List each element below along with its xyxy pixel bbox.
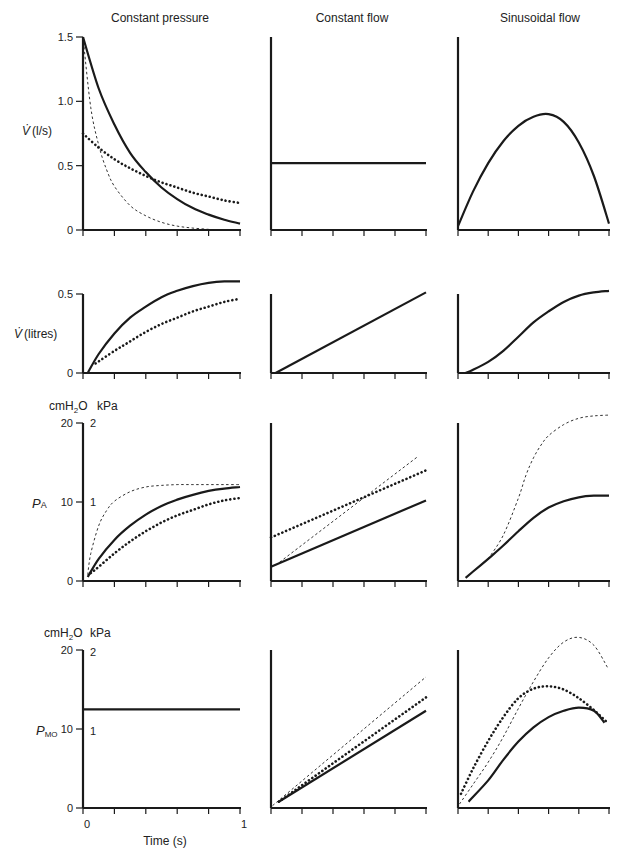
series-solid xyxy=(469,708,605,802)
x-tick-label-1: 1 xyxy=(241,818,247,830)
x-tick-label-0: 0 xyxy=(84,818,90,830)
y-tick-label-kpa: 2 xyxy=(90,646,96,658)
x-axis-title: Time (s) xyxy=(143,834,187,848)
column-title-constant-flow: Constant flow xyxy=(316,11,389,25)
series-dotted xyxy=(461,686,608,794)
y-tick-label: 20 xyxy=(61,417,73,429)
row-label-mouth-pressure: PMO xyxy=(36,723,58,739)
y-tick-label: 0 xyxy=(67,575,73,587)
series-dotted xyxy=(91,498,240,573)
row-label-alveolar-pressure: PA xyxy=(32,496,47,511)
y-tick-label: 1.0 xyxy=(58,95,73,107)
series-dashed xyxy=(88,485,240,575)
panel-r3-c3 xyxy=(458,415,610,587)
series-solid xyxy=(83,37,240,224)
y-tick-label: 10 xyxy=(61,496,73,508)
y-tick-label: 0.5 xyxy=(58,288,73,300)
row4-units-cmh2o: cmH2O xyxy=(44,626,82,642)
y-tick-label: 20 xyxy=(61,644,73,656)
row3-units-cmh2o: cmH2O xyxy=(49,399,87,415)
series-dotted xyxy=(83,134,240,204)
row3-units-kpa: kPa xyxy=(97,399,118,413)
panel-r4-c2 xyxy=(271,650,427,814)
panel-r3-c2 xyxy=(271,423,427,587)
row-label-volume: V̇(litres) xyxy=(14,327,57,341)
y-tick-label: 10 xyxy=(61,723,73,735)
y-tick-label-kpa: 1 xyxy=(90,725,96,737)
series-dotted xyxy=(271,470,426,537)
series-solid xyxy=(276,292,426,373)
series-solid xyxy=(88,281,240,373)
x-axis-labels: 0 1 Time (s) xyxy=(84,818,247,848)
panel-r2-c2 xyxy=(271,292,427,379)
panel-r1-c3 xyxy=(458,37,610,236)
panel-r4-c3 xyxy=(458,637,610,814)
figure-canvas: Constant pressure Constant flow Sinusoid… xyxy=(0,0,624,858)
row-label-flow: V̇(l/s) xyxy=(22,124,52,138)
series-dashed xyxy=(273,677,426,806)
y-tick-label-kpa: 2 xyxy=(90,417,96,429)
row4-units-kpa: kPa xyxy=(90,626,111,640)
y-tick-label: 0 xyxy=(67,802,73,814)
series-dashed xyxy=(83,37,216,230)
series-solid xyxy=(88,487,240,577)
panel-r4-c1: 0101202 xyxy=(61,644,241,814)
column-titles: Constant pressure Constant flow Sinusoid… xyxy=(111,11,580,25)
series-solid xyxy=(466,496,609,578)
y-tick-label: 0 xyxy=(67,224,73,236)
panel-r1-c2 xyxy=(271,37,427,236)
panel-grid: 00.51.01.500.501012020101202 xyxy=(58,31,610,814)
series-solid xyxy=(279,711,426,802)
y-tick-label: 0.5 xyxy=(58,160,73,172)
series-dashed xyxy=(276,456,419,565)
series-solid xyxy=(271,500,426,566)
series-dashed xyxy=(460,637,608,804)
panel-r3-c1: 0101202 xyxy=(61,417,241,587)
y-tick-label: 0 xyxy=(67,367,73,379)
panel-r2-c1: 00.5 xyxy=(58,281,241,379)
y-tick-label: 1.5 xyxy=(58,31,73,43)
series-dashed xyxy=(488,415,609,559)
column-title-constant-pressure: Constant pressure xyxy=(111,11,209,25)
panel-r2-c3 xyxy=(458,291,610,379)
y-tick-label-kpa: 1 xyxy=(90,496,96,508)
series-solid xyxy=(466,291,609,373)
series-dotted xyxy=(279,697,426,801)
panel-r1-c1: 00.51.01.5 xyxy=(58,31,241,236)
series-solid xyxy=(458,114,609,226)
column-title-sinusoidal-flow: Sinusoidal flow xyxy=(500,11,580,25)
